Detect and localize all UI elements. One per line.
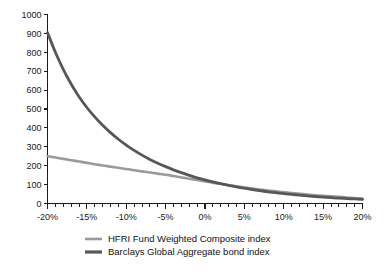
x-tick-label: -5% <box>158 212 174 222</box>
chart-background <box>0 0 385 272</box>
y-tick-label: 200 <box>26 161 41 171</box>
y-tick-label: 300 <box>26 142 41 152</box>
chart-container: 01002003004005006007008009001000 -20%-15… <box>0 0 385 272</box>
legend-label-barclays: Barclays Global Aggregate bond index <box>108 246 270 257</box>
x-tick-label: 15% <box>314 212 332 222</box>
y-tick-label: 700 <box>26 66 41 76</box>
x-tick-label: 0% <box>198 212 211 222</box>
y-tick-label: 400 <box>26 123 41 133</box>
y-tick-label: 500 <box>26 104 41 114</box>
x-axis-tick-labels: -20%-15%-10%-5%0%5%10%15%20% <box>37 212 372 222</box>
x-tick-label: -10% <box>116 212 137 222</box>
y-tick-label: 800 <box>26 48 41 58</box>
x-tick-label: -20% <box>37 212 58 222</box>
chart-svg: 01002003004005006007008009001000 -20%-15… <box>0 0 385 272</box>
x-tick-label: -15% <box>76 212 97 222</box>
legend-label-hfri: HFRI Fund Weighted Composite index <box>108 233 271 244</box>
x-tick-label: 20% <box>353 212 371 222</box>
y-tick-label: 0 <box>36 199 41 209</box>
x-tick-label: 10% <box>275 212 293 222</box>
y-tick-label: 100 <box>26 180 41 190</box>
y-tick-label: 900 <box>26 29 41 39</box>
y-tick-label: 1000 <box>21 10 41 20</box>
x-tick-label: 5% <box>238 212 251 222</box>
y-tick-label: 600 <box>26 85 41 95</box>
